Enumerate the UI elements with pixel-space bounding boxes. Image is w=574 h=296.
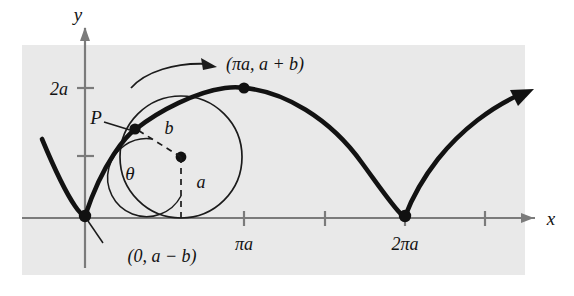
- y-axis-label: y: [72, 4, 83, 25]
- cusp-point-label: (0, a − b): [127, 246, 196, 267]
- peak-point-dot: [238, 82, 249, 93]
- cusp-point-2pia-dot: [399, 210, 411, 222]
- angle-theta-label: θ: [125, 163, 134, 184]
- peak-point-label: (πa, a + b): [226, 54, 304, 75]
- point-p-dot: [129, 123, 140, 134]
- x-tick-label-2pia: 2πa: [391, 234, 418, 254]
- cycloid-figure: y x 2a πa 2πa P b a θ (πa, a + b) (0, a …: [0, 0, 574, 296]
- cycloid-diagram-svg: y x 2a πa 2πa P b a θ (πa, a + b) (0, a …: [0, 0, 574, 296]
- x-axis-arrowhead: [521, 213, 534, 223]
- x-axis-label: x: [546, 208, 556, 229]
- y-axis-arrowhead: [80, 27, 90, 41]
- point-p-label: P: [89, 107, 102, 128]
- radius-b-label: b: [165, 118, 174, 138]
- x-tick-label-pia: πa: [235, 234, 253, 254]
- plot-background: [22, 45, 525, 275]
- cusp-point-origin-dot: [79, 210, 91, 222]
- y-tick-label-2a: 2a: [50, 79, 68, 99]
- radius-a-label: a: [197, 172, 206, 192]
